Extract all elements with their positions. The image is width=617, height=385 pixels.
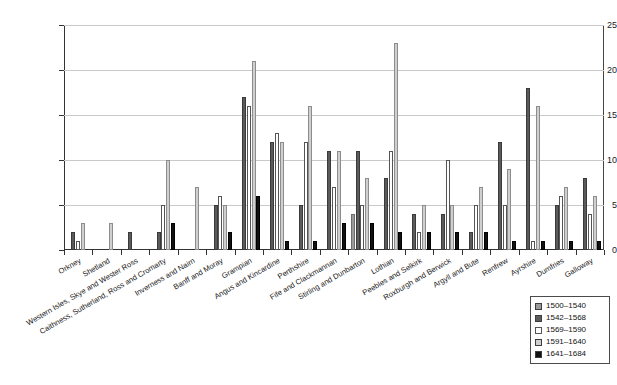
bar	[569, 241, 573, 250]
bar	[252, 61, 256, 250]
bar-group	[320, 25, 348, 250]
legend-label: 1542–1568	[546, 314, 586, 322]
legend-swatch-icon	[535, 327, 542, 334]
legend-swatch-icon	[535, 303, 542, 310]
bar	[195, 187, 199, 250]
bar	[398, 232, 402, 250]
bar	[503, 205, 507, 250]
bar-group	[576, 25, 604, 250]
x-axis-label: Dumfries	[535, 256, 566, 279]
bar-group	[490, 25, 518, 250]
bar	[365, 178, 369, 250]
legend-item: 1569–1590	[535, 324, 605, 336]
bar	[593, 196, 597, 250]
bar-group	[462, 25, 490, 250]
bar-chart: 0510152025 OrkneyShetlandWestern Isles, …	[0, 0, 617, 385]
bar	[81, 223, 85, 250]
bar	[270, 142, 274, 250]
legend-swatch-icon	[535, 315, 542, 322]
bar	[351, 214, 355, 250]
bar	[332, 187, 336, 250]
bar	[356, 151, 360, 250]
bar	[342, 223, 346, 250]
x-axis-labels: OrkneyShetlandWestern Isles, Skye and We…	[0, 250, 617, 360]
bar	[564, 187, 568, 250]
bar	[583, 178, 587, 250]
bar	[526, 88, 530, 250]
bar	[299, 205, 303, 250]
bar	[76, 241, 80, 250]
bar	[455, 232, 459, 250]
bar	[597, 241, 601, 250]
legend-label: 1641–1684	[546, 350, 586, 358]
bar	[555, 205, 559, 250]
bar	[498, 142, 502, 250]
bar-group	[291, 25, 319, 250]
bar	[559, 196, 563, 250]
bar-group	[178, 25, 206, 250]
bar-group	[405, 25, 433, 250]
bar-group	[92, 25, 120, 250]
bar-group	[263, 25, 291, 250]
bar	[275, 133, 279, 250]
x-axis-label: Galloway	[563, 256, 595, 279]
legend-item: 1500–1540	[535, 300, 605, 312]
bar	[161, 205, 165, 250]
bar	[214, 205, 218, 250]
bar	[242, 97, 246, 250]
bar-group	[206, 25, 234, 250]
bar-group	[519, 25, 547, 250]
bar	[218, 196, 222, 250]
legend-swatch-icon	[535, 339, 542, 346]
bar	[228, 232, 232, 250]
bar	[128, 232, 132, 250]
bar	[394, 43, 398, 250]
bar-group	[348, 25, 376, 250]
bar	[474, 205, 478, 250]
bar	[71, 232, 75, 250]
bar	[469, 232, 473, 250]
legend: 1500–15401542–15681569–15901591–16401641…	[530, 296, 610, 364]
bar	[450, 205, 454, 250]
bar-group	[64, 25, 92, 250]
bar-group	[433, 25, 461, 250]
bar	[531, 241, 535, 250]
bar	[171, 223, 175, 250]
bar	[313, 241, 317, 250]
bar	[446, 160, 450, 250]
bar-group	[377, 25, 405, 250]
bar-groups	[64, 25, 604, 250]
legend-label: 1500–1540	[546, 302, 586, 310]
bar	[422, 205, 426, 250]
bar	[512, 241, 516, 250]
bar	[389, 151, 393, 250]
bar	[285, 241, 289, 250]
bar-group	[235, 25, 263, 250]
legend-label: 1591–1640	[546, 338, 586, 346]
bar	[109, 223, 113, 250]
x-axis-label: Ayrshire	[509, 256, 538, 278]
bar	[427, 232, 431, 250]
bar	[256, 196, 260, 250]
x-axis-label: Orkney	[57, 256, 83, 276]
bar	[337, 151, 341, 250]
bar	[541, 241, 545, 250]
bar	[588, 214, 592, 250]
bar	[327, 151, 331, 250]
x-axis-label: Renfrew	[480, 256, 509, 278]
bar	[166, 160, 170, 250]
bar	[479, 187, 483, 250]
bar	[247, 106, 251, 250]
x-axis-label: Western Isles, Skye and Wester Ross	[25, 256, 140, 327]
bar	[536, 106, 540, 250]
bar	[484, 232, 488, 250]
legend-item: 1641–1684	[535, 348, 605, 360]
bar	[308, 106, 312, 250]
bar-group	[149, 25, 177, 250]
legend-swatch-icon	[535, 351, 542, 358]
bar	[304, 142, 308, 250]
bar	[280, 142, 284, 250]
bar-group	[547, 25, 575, 250]
bar	[157, 232, 161, 250]
bar	[223, 205, 227, 250]
